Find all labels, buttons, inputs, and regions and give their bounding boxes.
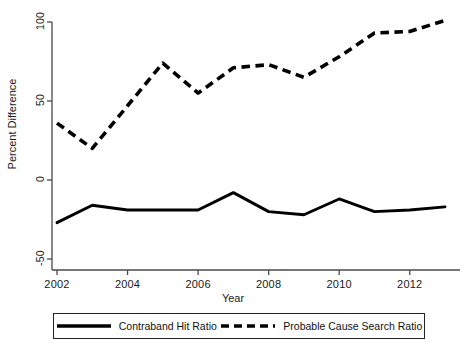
y-tick-label: 0: [34, 159, 46, 199]
axes: [47, 22, 460, 275]
legend-item-contraband-hit-ratio: Contraband Hit Ratio: [56, 320, 217, 332]
data-series: [57, 20, 445, 222]
y-tick-label: 50: [34, 80, 46, 120]
series-line-contraband-hit-ratio: [57, 193, 445, 223]
y-tick-label: -50: [34, 238, 46, 278]
legend-label: Contraband Hit Ratio: [119, 320, 217, 332]
chart-legend: Contraband Hit Ratio Probable Cause Sear…: [53, 313, 425, 339]
legend-label: Probable Cause Search Ratio: [283, 320, 422, 332]
series-line-probable-cause-search-ratio: [57, 20, 445, 148]
x-tick-label: 2002: [44, 278, 69, 290]
x-tick-label: 2012: [397, 278, 422, 290]
x-tick-label: 2010: [327, 278, 352, 290]
y-tick-label: 100: [34, 1, 46, 41]
legend-item-probable-cause-search-ratio: Probable Cause Search Ratio: [220, 320, 422, 332]
legend-swatch-dashed-icon: [220, 321, 276, 331]
x-axis-title: Year: [0, 292, 466, 304]
x-tick-label: 2004: [115, 278, 140, 290]
x-tick-label: 2006: [185, 278, 210, 290]
x-tick-label: 2008: [256, 278, 281, 290]
y-axis-title: Percent Difference: [6, 54, 18, 194]
chart-figure: 100 50 0 -50 2002 2004 2006 2008 2010 20…: [0, 0, 466, 349]
legend-swatch-solid-icon: [56, 321, 112, 331]
